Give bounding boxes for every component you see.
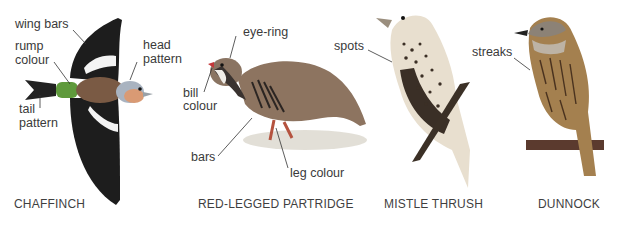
label-streaks: streaks — [472, 45, 512, 60]
species-name-mistle-thrush: MISTLE THRUSH — [384, 197, 483, 211]
bird-illustrations — [0, 0, 624, 225]
mistle-thrush-illustration — [376, 15, 470, 188]
label-bill-colour-line2: colour — [183, 99, 217, 114]
label-bars: bars — [191, 150, 215, 165]
label-wing-bars: wing bars — [15, 17, 69, 32]
species-name-chaffinch: CHAFFINCH — [14, 197, 85, 211]
species-name-red-legged-partridge: RED-LEGGED PARTRIDGE — [198, 197, 354, 211]
chaffinch-illustration — [25, 18, 153, 205]
label-leg-colour: leg colour — [290, 166, 344, 181]
label-tail-pattern-line2: pattern — [19, 116, 58, 131]
label-head-pattern-line1: head — [143, 38, 171, 53]
label-head-pattern-line2: pattern — [143, 52, 182, 67]
label-spots: spots — [334, 39, 364, 54]
species-name-dunnock: DUNNOCK — [538, 197, 600, 211]
partridge-illustration — [208, 58, 367, 150]
dunnock-illustration — [514, 17, 604, 176]
label-eye-ring: eye-ring — [243, 25, 288, 40]
label-rump-colour-line2: colour — [15, 53, 49, 68]
label-tail-pattern-line1: tail — [19, 102, 35, 117]
label-rump-colour-line1: rump — [15, 39, 43, 54]
